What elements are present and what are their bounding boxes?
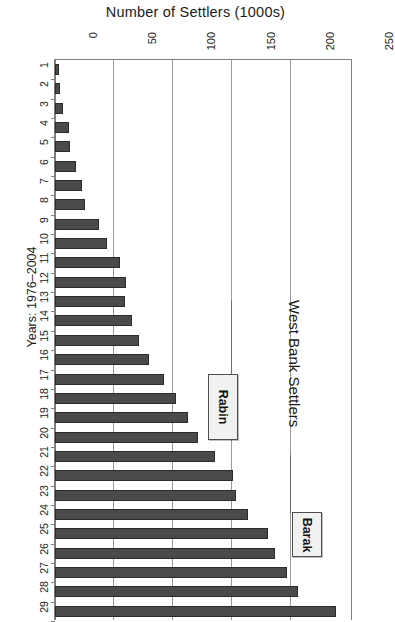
bar-22[interactable] <box>55 470 233 481</box>
bar-14[interactable] <box>55 315 132 326</box>
bar-23[interactable] <box>55 490 236 501</box>
bar-row <box>55 370 351 389</box>
bar-13[interactable] <box>55 296 125 307</box>
category-tick-29: 29 <box>38 597 50 616</box>
category-tick-10: 10 <box>38 229 50 248</box>
secondary-title: West Bank Settlers <box>286 300 303 490</box>
bar-row <box>55 466 351 485</box>
gridline-250 <box>351 60 352 620</box>
callout-rabin-label: Rabin <box>216 390 230 425</box>
bar-row <box>55 486 351 505</box>
category-tick-9: 9 <box>38 210 50 229</box>
category-tick-22: 22 <box>38 462 50 481</box>
bar-row <box>55 311 351 330</box>
category-tick-2: 2 <box>38 75 50 94</box>
bar-7[interactable] <box>55 180 82 191</box>
category-tick-21: 21 <box>38 442 50 461</box>
bar-15[interactable] <box>55 335 139 346</box>
category-tick-12: 12 <box>38 268 50 287</box>
bar-24[interactable] <box>55 509 248 520</box>
bar-19[interactable] <box>55 412 188 423</box>
bar-row <box>55 253 351 272</box>
category-tick-26: 26 <box>38 539 50 558</box>
category-tick-28: 28 <box>38 578 50 597</box>
callout-rabin[interactable]: Rabin <box>208 374 238 440</box>
bar-row <box>55 60 351 79</box>
bar-row <box>55 79 351 98</box>
callout-barak[interactable]: Barak <box>292 512 322 557</box>
rabin-leader-line <box>231 300 232 375</box>
bar-25[interactable] <box>55 528 268 539</box>
category-tick-20: 20 <box>38 423 50 442</box>
bar-row <box>55 331 351 350</box>
bar-17[interactable] <box>55 374 164 385</box>
bar-row <box>55 157 351 176</box>
category-tick-13: 13 <box>38 287 50 306</box>
bar-9[interactable] <box>55 219 99 230</box>
bar-11[interactable] <box>55 257 120 268</box>
category-tick-6: 6 <box>38 152 50 171</box>
bar-row <box>55 447 351 466</box>
category-tick-15: 15 <box>38 326 50 345</box>
bar-16[interactable] <box>55 354 149 365</box>
value-tick-250: 250 <box>383 32 395 66</box>
category-axis-label: Years: 1976–2004 <box>25 217 39 377</box>
category-tick-1: 1 <box>38 55 50 74</box>
bar-12[interactable] <box>55 277 126 288</box>
bar-row <box>55 582 351 601</box>
category-tick-11: 11 <box>38 249 50 268</box>
bar-row <box>55 350 351 369</box>
bar-10[interactable] <box>55 238 107 249</box>
bar-row <box>55 602 351 621</box>
bar-row <box>55 428 351 447</box>
bar-row <box>55 215 351 234</box>
bar-29[interactable] <box>55 606 336 617</box>
bar-18[interactable] <box>55 393 176 404</box>
bar-6[interactable] <box>55 161 76 172</box>
bar-1[interactable] <box>55 64 59 75</box>
category-tick-18: 18 <box>38 384 50 403</box>
bar-row <box>55 195 351 214</box>
bar-row <box>55 176 351 195</box>
bar-row <box>55 137 351 156</box>
bar-row <box>55 408 351 427</box>
bar-21[interactable] <box>55 451 215 462</box>
bar-row <box>55 563 351 582</box>
bar-26[interactable] <box>55 548 275 559</box>
bar-27[interactable] <box>55 567 287 578</box>
bar-2[interactable] <box>55 83 60 94</box>
category-tick-7: 7 <box>38 171 50 190</box>
category-tick-3: 3 <box>38 94 50 113</box>
bar-5[interactable] <box>55 141 70 152</box>
category-tick-27: 27 <box>38 558 50 577</box>
bar-row <box>55 389 351 408</box>
chart-title: Number of Settlers (1000s) <box>0 4 391 20</box>
bar-3[interactable] <box>55 103 63 114</box>
bar-row <box>55 234 351 253</box>
category-tick-25: 25 <box>38 520 50 539</box>
bar-row <box>55 99 351 118</box>
bar-4[interactable] <box>55 122 69 133</box>
barak-leader-line <box>290 455 291 513</box>
category-tick-8: 8 <box>38 191 50 210</box>
bar-20[interactable] <box>55 432 198 443</box>
category-tick-4: 4 <box>38 113 50 132</box>
bar-row <box>55 118 351 137</box>
category-tick-5: 5 <box>38 133 50 152</box>
category-tick-17: 17 <box>38 365 50 384</box>
bar-8[interactable] <box>55 199 85 210</box>
value-axis-tick-labels: 050100150200250 <box>0 26 391 56</box>
category-tick-19: 19 <box>38 404 50 423</box>
bar-row <box>55 292 351 311</box>
callout-barak-label: Barak <box>300 517 314 552</box>
bar-row <box>55 273 351 292</box>
category-tick-24: 24 <box>38 500 50 519</box>
category-tick-23: 23 <box>38 481 50 500</box>
bar-28[interactable] <box>55 586 298 597</box>
category-tick-14: 14 <box>38 307 50 326</box>
category-tick-16: 16 <box>38 346 50 365</box>
